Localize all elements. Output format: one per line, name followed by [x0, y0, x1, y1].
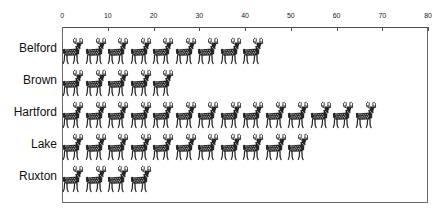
- deer-icon: [287, 133, 310, 161]
- category-label: Hartford: [0, 105, 57, 119]
- deer-icon: [107, 101, 130, 129]
- deer-icon: [332, 101, 355, 129]
- deer-icon: [242, 133, 265, 161]
- deer-icon: [85, 37, 108, 65]
- x-tick-label: 80: [424, 12, 431, 19]
- deer-icon: [130, 165, 153, 193]
- deer-icon: [175, 101, 198, 129]
- icon-strip: [62, 161, 152, 193]
- x-tick-label: 0: [60, 12, 64, 19]
- deer-icon: [265, 101, 288, 129]
- deer-icon: [242, 101, 265, 129]
- deer-icon: [85, 165, 108, 193]
- pictograph-chart: 01020304050607080 BelfordBrownHartfordLa…: [0, 0, 442, 218]
- icon-strip: [62, 65, 175, 97]
- chart-row: Brown: [0, 65, 442, 97]
- chart-row: Belford: [0, 33, 442, 65]
- deer-icon: [62, 133, 85, 161]
- icon-strip: [62, 33, 265, 65]
- x-tick-label: 20: [150, 12, 157, 19]
- chart-row: Hartford: [0, 97, 442, 129]
- icon-strip: [62, 129, 310, 161]
- x-tick-label: 50: [287, 12, 294, 19]
- icon-strip: [62, 97, 377, 129]
- chart-row: Ruxton: [0, 161, 442, 193]
- x-tick-label: 40: [241, 12, 248, 19]
- category-label: Ruxton: [0, 169, 57, 183]
- x-tick-label: 30: [196, 12, 203, 19]
- deer-icon: [152, 69, 175, 97]
- deer-icon: [62, 69, 85, 97]
- deer-icon: [287, 101, 310, 129]
- deer-icon: [130, 37, 153, 65]
- deer-icon: [107, 69, 130, 97]
- deer-icon: [175, 37, 198, 65]
- x-tick-label: 60: [333, 12, 340, 19]
- deer-icon: [152, 133, 175, 161]
- deer-icon: [85, 101, 108, 129]
- deer-icon: [130, 101, 153, 129]
- deer-icon: [62, 165, 85, 193]
- category-label: Lake: [0, 137, 57, 151]
- deer-icon: [85, 133, 108, 161]
- deer-icon: [355, 101, 378, 129]
- deer-icon: [197, 101, 220, 129]
- x-tick-label: 10: [104, 12, 111, 19]
- deer-icon: [310, 101, 333, 129]
- deer-icon: [152, 37, 175, 65]
- deer-icon: [62, 37, 85, 65]
- chart-row: Lake: [0, 129, 442, 161]
- deer-icon: [220, 101, 243, 129]
- deer-icon: [130, 133, 153, 161]
- x-tick-label: 70: [379, 12, 386, 19]
- deer-icon: [242, 37, 265, 65]
- category-label: Brown: [0, 73, 57, 87]
- deer-icon: [85, 69, 108, 97]
- deer-icon: [107, 37, 130, 65]
- deer-icon: [152, 101, 175, 129]
- category-label: Belford: [0, 41, 57, 55]
- deer-icon: [107, 165, 130, 193]
- deer-icon: [197, 133, 220, 161]
- deer-icon: [220, 133, 243, 161]
- deer-icon: [265, 133, 288, 161]
- deer-icon: [62, 101, 85, 129]
- deer-icon: [175, 133, 198, 161]
- deer-icon: [130, 69, 153, 97]
- deer-icon: [197, 37, 220, 65]
- deer-icon: [107, 133, 130, 161]
- deer-icon: [220, 37, 243, 65]
- x-tick-mark: [428, 27, 429, 31]
